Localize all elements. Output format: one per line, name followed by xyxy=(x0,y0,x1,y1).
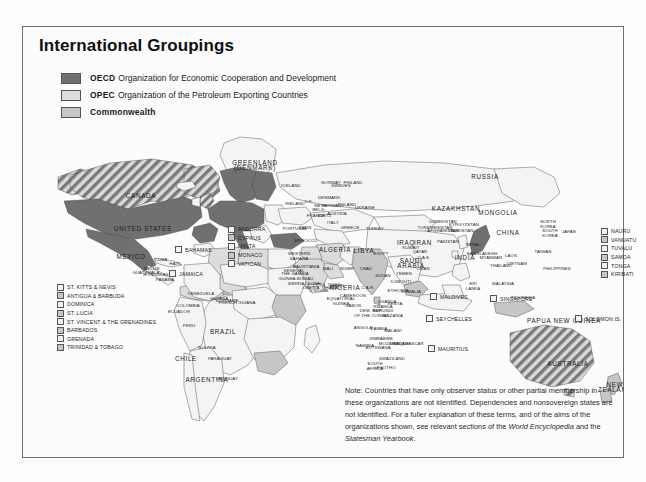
country-label-minor: CHAD xyxy=(360,266,373,271)
country-label: ANTIGUA & BARBUDA xyxy=(67,293,124,299)
note-line-4a: organizations shown, see relevant sectio… xyxy=(345,422,509,431)
country-label-major: GREENLAND(DENMARK) xyxy=(232,159,278,172)
country-label-major: CHILE xyxy=(175,355,197,362)
caribbean-item: GRENADA xyxy=(57,335,156,344)
swatch-box xyxy=(175,246,182,253)
caribbean-item: TRINIDAD & TOBAGO xyxy=(57,343,156,352)
pacific-item: NAURU xyxy=(601,227,636,236)
map-pin: MAURITIUS xyxy=(428,345,468,352)
country-label-major: BRAZIL xyxy=(210,328,236,335)
legend-swatch-oecd xyxy=(61,73,81,84)
country-label-minor: LESOTHO xyxy=(374,365,396,370)
country-label: TUVALU xyxy=(611,245,632,251)
swatch-box xyxy=(57,344,64,351)
country-label-minor: SRILANKA xyxy=(466,281,481,291)
swatch-box xyxy=(601,245,608,252)
country-label-minor: PAKISTAN xyxy=(437,239,458,244)
country-label: MALTA xyxy=(238,243,255,249)
swatch-box xyxy=(228,260,235,267)
country-label: BARBADOS xyxy=(67,327,97,333)
swatch-box xyxy=(601,271,608,278)
country-label-minor: C.A.R. xyxy=(361,285,374,290)
map-frame: International Groupings OECD Organizatio… xyxy=(22,26,624,458)
note-line-1: Note: Countries that have only observer … xyxy=(345,386,597,395)
note-line-5b: . xyxy=(413,434,415,443)
country-shape-australia xyxy=(510,325,594,387)
caribbean-item: ST. VINCENT & THE GRENADINES xyxy=(57,317,156,326)
map-pin: JAMAICA xyxy=(169,270,203,277)
country-shape-finland-baltic xyxy=(252,171,276,201)
swatch-box xyxy=(228,234,235,241)
swatch-box xyxy=(57,318,64,325)
country-label-minor: PERU xyxy=(183,323,195,328)
country-label-major: KAZAKHSTAN xyxy=(432,205,481,212)
boxlist-europe-microstates: ANDORRACYPRUSMALTAMONACOVATICAN xyxy=(228,225,265,268)
country-label: ANDORRA xyxy=(238,226,265,232)
country-label: TONGA xyxy=(611,263,630,269)
boxlist-pacific: NAURUVANUATUTUVALUSAMOATONGAKIRIBATI xyxy=(601,227,636,279)
map-note: Note: Countries that have only observer … xyxy=(345,385,613,445)
country-shape-ireland xyxy=(192,197,200,207)
country-label-minor: ICELAND xyxy=(281,183,300,188)
country-label-minor: TAIWAN xyxy=(535,249,552,254)
country-shape-png xyxy=(494,301,534,317)
country-label-minor: PARAGUAY xyxy=(208,356,232,361)
legend-swatch-commonwealth xyxy=(61,107,81,118)
swatch-box xyxy=(228,252,235,259)
country-label: SAMOA xyxy=(611,254,631,260)
country-label-major: LIBYA xyxy=(354,247,375,254)
note-line-2: these organizations are not identified. … xyxy=(345,398,600,407)
boxlist-caribbean: ST. KITTS & NEVISANTIGUA & BARBUDADOMINI… xyxy=(57,283,156,352)
swatch-box xyxy=(57,327,64,334)
europe-micro-item: CYPRUS xyxy=(228,234,265,243)
country-label: VANUATU xyxy=(611,237,636,243)
country-label-minor: SENEGAL xyxy=(284,268,306,273)
swatch-box xyxy=(57,335,64,342)
caribbean-item: ST. LUCIA xyxy=(57,309,156,318)
europe-micro-item: MONACO xyxy=(228,251,265,260)
legend: OECD Organization for Economic Cooperati… xyxy=(61,71,336,122)
country-label-minor: THAILAND xyxy=(490,263,512,268)
swatch-box xyxy=(430,293,437,300)
europe-micro-item: MALTA xyxy=(228,242,265,251)
swatch-box xyxy=(57,292,64,299)
country-label-minor: IRELAND xyxy=(285,201,304,206)
country-label: KIRIBATI xyxy=(611,271,634,277)
country-shape-philippines xyxy=(452,263,470,281)
country-label-minor: ITALY xyxy=(327,220,339,225)
country-label-minor: GREECE xyxy=(341,225,360,230)
swatch-box xyxy=(57,310,64,317)
country-label-minor: HAITI xyxy=(169,261,180,266)
europe-micro-item: VATICAN xyxy=(228,259,265,268)
swatch-box xyxy=(490,295,497,302)
country-label: ST. KITTS & NEVIS xyxy=(67,284,116,290)
country-label-minor: EGYPT xyxy=(373,251,388,256)
country-label: BAHAMAS xyxy=(185,247,212,253)
country-label-major: CANADA xyxy=(126,192,157,199)
country-label-minor: BURUNDI xyxy=(373,308,393,313)
country-label: SINGAPORE xyxy=(500,296,533,302)
country-label: JAMAICA xyxy=(179,271,203,277)
country-label-minor: MALI xyxy=(323,266,333,271)
swatch-box xyxy=(601,254,608,261)
country-label-minor: COLOMBIA xyxy=(176,303,200,308)
legend-text-oecd: Organization for Economic Cooperation an… xyxy=(118,73,336,83)
country-label: CYPRUS xyxy=(238,235,261,241)
map-pin: SEYCHELLES xyxy=(426,315,472,322)
country-label: ST. VINCENT & THE GRENADINES xyxy=(67,319,156,325)
map-pin: MALDIVES xyxy=(430,293,468,300)
country-label-minor: AUSTRIA xyxy=(327,211,346,216)
world-map: CANADAUNITED STATESMEXICOBRAZILARGENTINA… xyxy=(24,125,624,425)
note-ref-world-encyclopedia: World Encyclopedia xyxy=(509,422,574,431)
swatch-box xyxy=(428,345,435,352)
swatch-box xyxy=(601,228,608,235)
legend-item-commonwealth: Commonwealth xyxy=(61,105,336,119)
page-title: International Groupings xyxy=(39,36,234,56)
country-label-minor: ANGOLA xyxy=(354,325,373,330)
country-label-minor: JAPAN xyxy=(562,229,576,234)
map-pin: SINGAPORE xyxy=(490,295,533,302)
country-label-minor: LAOS xyxy=(505,253,517,258)
country-label-major: AUSTRALIA xyxy=(547,360,588,367)
country-label-minor: NIGER xyxy=(340,266,354,271)
country-label-minor: URUGUAY xyxy=(216,376,238,381)
